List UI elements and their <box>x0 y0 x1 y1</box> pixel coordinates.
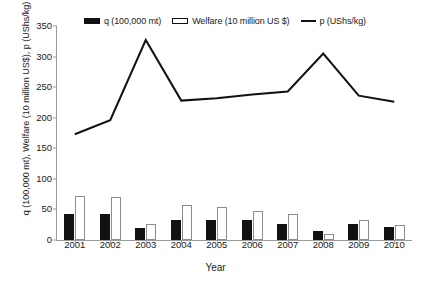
x-axis-tick-mark <box>252 240 253 244</box>
bar-welfare-2002 <box>111 197 121 240</box>
x-axis-tick-mark <box>181 240 182 244</box>
bar-group <box>341 26 377 240</box>
bar-q-2006 <box>242 220 252 240</box>
x-axis-tick-mark <box>323 240 324 244</box>
bar-line-chart: q (100,000 mt) Welfare (10 million US $)… <box>0 0 431 287</box>
y-axis-tick-label: 150 <box>36 144 52 154</box>
bar-q-2009 <box>348 224 358 240</box>
y-axis-tick-label: 50 <box>41 205 52 215</box>
bar-group <box>93 26 129 240</box>
legend-label-welfare: Welfare (10 million US $) <box>192 17 289 26</box>
bar-q-2004 <box>171 220 181 240</box>
legend-swatch-filled-bar-icon <box>84 18 100 24</box>
x-axis-tick-mark <box>217 240 218 244</box>
bar-welfare-2006 <box>253 211 263 240</box>
y-axis-tick-label: 350 <box>36 21 52 31</box>
x-axis-tick-mark <box>359 240 360 244</box>
y-axis-tick-label: 0 <box>47 235 52 245</box>
bar-q-2001 <box>64 214 74 240</box>
y-axis-tick-label: 200 <box>36 113 52 123</box>
bar-welfare-2007 <box>288 214 298 240</box>
y-axis-tick-label: 250 <box>36 82 52 92</box>
legend-label-p: p (UShs/kg) <box>320 17 366 26</box>
bar-q-2002 <box>100 214 110 240</box>
bar-welfare-2005 <box>217 207 227 240</box>
bar-welfare-2004 <box>182 205 192 240</box>
bar-group <box>164 26 200 240</box>
x-axis-tick-mark <box>146 240 147 244</box>
bar-welfare-2001 <box>75 196 85 240</box>
bar-group <box>235 26 271 240</box>
bar-welfare-2010 <box>395 225 405 240</box>
bar-welfare-2003 <box>146 224 156 241</box>
legend-swatch-hollow-bar-icon <box>172 18 188 24</box>
y-axis-title: q (100,000 mt), Welfare (10 million US$)… <box>22 0 31 219</box>
y-axis-tick-label: 100 <box>36 174 52 184</box>
legend-swatch-line-icon <box>301 20 316 22</box>
x-axis-title: Year <box>0 263 431 273</box>
bar-q-2007 <box>277 224 287 241</box>
bar-group <box>57 26 93 240</box>
x-axis-tick-mark <box>110 240 111 244</box>
legend-item-q: q (100,000 mt) <box>84 17 161 26</box>
legend-item-p: p (UShs/kg) <box>301 17 366 26</box>
bar-group <box>128 26 164 240</box>
bar-group <box>306 26 342 240</box>
bar-welfare-2009 <box>359 220 369 240</box>
bar-group <box>377 26 413 240</box>
plot-area: 050100150200250300350 <box>57 26 412 240</box>
x-axis-tick-mark <box>288 240 289 244</box>
bar-q-2005 <box>206 220 216 240</box>
y-axis-tick-label: 300 <box>36 52 52 62</box>
bar-group <box>270 26 306 240</box>
legend-item-welfare: Welfare (10 million US $) <box>172 17 289 26</box>
bar-group <box>199 26 235 240</box>
x-axis-tick-mark <box>394 240 395 244</box>
x-axis-tick-mark <box>75 240 76 244</box>
legend-label-q: q (100,000 mt) <box>104 17 161 26</box>
